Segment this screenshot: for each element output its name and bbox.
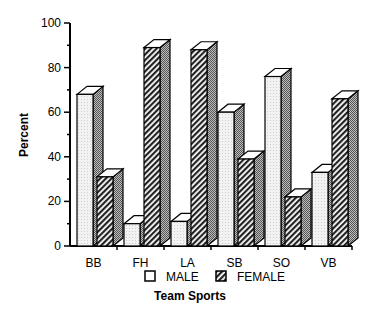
legend: MALEFEMALE — [145, 270, 285, 284]
bar-female-fh — [144, 40, 170, 246]
bar-female-vb — [332, 91, 358, 246]
x-axis-label: Team Sports — [154, 289, 226, 303]
x-tick-label: VB — [320, 256, 336, 270]
bar-female-la — [191, 42, 217, 246]
legend-label: FEMALE — [237, 270, 285, 284]
y-tick-label: 0 — [54, 239, 61, 253]
legend-item-female: FEMALE — [216, 270, 285, 284]
bar-female-so — [285, 189, 311, 246]
bars — [77, 40, 358, 246]
x-tick-label: BB — [85, 256, 101, 270]
x-tick-label: SB — [226, 256, 242, 270]
y-tick-label: 60 — [48, 105, 62, 119]
x-tick-label: SO — [273, 256, 290, 270]
y-tick-label: 20 — [48, 194, 62, 208]
x-tick-label: FH — [133, 256, 149, 270]
bar-chart: 020406080100BBFHLASBSOVB Percent MALEFEM… — [0, 0, 372, 317]
y-tick-label: 100 — [41, 16, 61, 30]
y-tick-label: 80 — [48, 61, 62, 75]
bar-female-bb — [97, 169, 123, 246]
legend-label: MALE — [166, 270, 199, 284]
y-tick-label: 40 — [48, 150, 62, 164]
bar-female-sb — [238, 151, 264, 246]
legend-swatch — [216, 271, 226, 281]
legend-item-male: MALE — [145, 270, 199, 284]
legend-swatch — [145, 271, 155, 281]
x-tick-label: LA — [180, 256, 195, 270]
y-axis-label: Percent — [17, 113, 31, 157]
